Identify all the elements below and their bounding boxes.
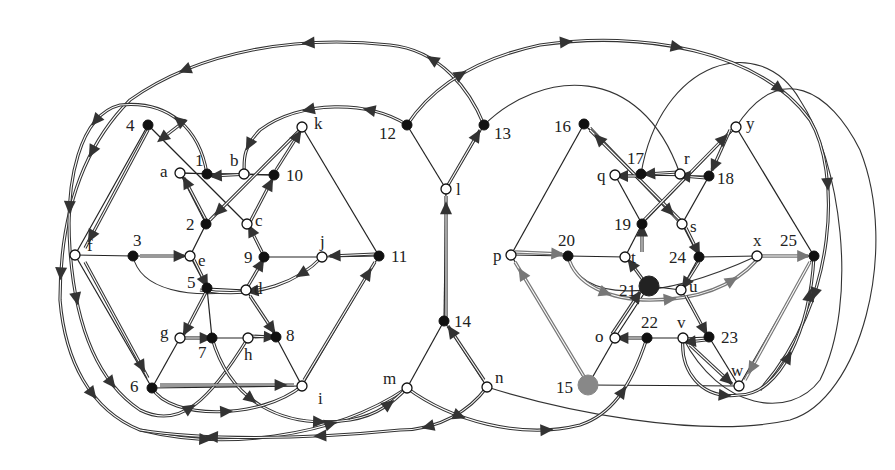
node-e xyxy=(185,251,195,261)
arrowhead-icon xyxy=(313,430,327,443)
node-p xyxy=(506,250,516,260)
node-4 xyxy=(143,120,153,130)
thin-curves-layer xyxy=(133,63,876,427)
node-label-h: h xyxy=(244,345,253,364)
node-label-18: 18 xyxy=(717,169,734,188)
node-9 xyxy=(259,252,269,262)
arrowhead-icon xyxy=(275,379,288,391)
node-label-5: 5 xyxy=(187,273,196,292)
node-label-16: 16 xyxy=(554,117,571,136)
node-a xyxy=(175,168,185,178)
node-x xyxy=(752,251,762,261)
node-label-j: j xyxy=(319,232,325,251)
node-label-15: 15 xyxy=(556,378,573,397)
node-24 xyxy=(694,252,704,262)
node-label-1: 1 xyxy=(195,151,204,170)
graph-edge-5-d xyxy=(207,288,246,290)
node-1 xyxy=(202,169,212,179)
node-m xyxy=(402,383,412,393)
node-label-21: 21 xyxy=(619,281,636,300)
node-label-l: l xyxy=(456,180,461,199)
arrowhead-icon xyxy=(360,265,377,282)
node-label-g: g xyxy=(160,323,169,342)
node-6 xyxy=(147,383,157,393)
directed-path-inner xyxy=(152,386,302,412)
node-label-m: m xyxy=(383,369,396,388)
node-r xyxy=(675,169,685,179)
node-label-3: 3 xyxy=(133,231,142,250)
directed-segment-inner xyxy=(85,262,148,378)
node-f xyxy=(70,250,80,260)
node-label-d: d xyxy=(254,279,263,298)
node-label-24: 24 xyxy=(669,248,687,267)
graph-diagram: 4ka1b102cf3e9j115dg7h86i1213l14mn16yq17r… xyxy=(0,0,895,470)
graph-edge-y-25 xyxy=(736,127,814,256)
node-label-p: p xyxy=(493,246,502,265)
node-w xyxy=(734,381,744,391)
node-label-r: r xyxy=(684,149,690,168)
arrowhead-icon xyxy=(241,136,258,153)
arrowhead-icon xyxy=(797,250,810,262)
node-label-c: c xyxy=(255,211,263,230)
node-d xyxy=(241,285,251,295)
node-q xyxy=(610,170,620,180)
node-n xyxy=(482,382,492,392)
directed-segment-inner xyxy=(515,262,586,380)
node-label-20: 20 xyxy=(558,231,575,250)
node-label-23: 23 xyxy=(721,328,738,347)
node-label-n: n xyxy=(495,368,504,387)
node-14 xyxy=(439,316,449,326)
arrowhead-icon xyxy=(663,293,677,306)
node-label-22: 22 xyxy=(641,313,658,332)
node-h xyxy=(243,333,253,343)
node-13 xyxy=(479,120,489,130)
directed-path xyxy=(60,42,484,440)
node-label-7: 7 xyxy=(198,343,207,362)
node-u xyxy=(676,285,686,295)
graph-edge-f-3 xyxy=(75,255,133,256)
node-o xyxy=(610,333,620,343)
node-label-25: 25 xyxy=(780,231,797,250)
arrowhead-icon xyxy=(220,405,234,418)
node-3 xyxy=(128,251,138,261)
node-j xyxy=(317,252,327,262)
node-label-e: e xyxy=(198,251,206,270)
thin-curve xyxy=(484,85,680,174)
graph-edge-15-w xyxy=(588,385,739,386)
graph-edge-14-m xyxy=(407,321,444,388)
node-label-19: 19 xyxy=(614,215,631,234)
node-label-b: b xyxy=(230,151,239,170)
node-v xyxy=(678,333,688,343)
node-s xyxy=(677,219,687,229)
node-7 xyxy=(207,333,217,343)
node-12 xyxy=(402,120,412,130)
node-label-y: y xyxy=(746,114,755,133)
arrowhead-icon xyxy=(540,424,554,437)
node-label-w: w xyxy=(731,361,744,380)
node-label-q: q xyxy=(597,166,606,185)
node-label-i: i xyxy=(318,389,323,408)
node-label-u: u xyxy=(689,277,698,296)
arrowhead-icon xyxy=(513,265,530,282)
node-5 xyxy=(202,283,212,293)
node-16 xyxy=(579,119,589,129)
node-label-v: v xyxy=(677,313,686,332)
graph-edge-24-x xyxy=(699,256,757,257)
node-label-x: x xyxy=(753,231,762,250)
node-l xyxy=(441,184,451,194)
node-i xyxy=(297,381,307,391)
node-k xyxy=(297,122,307,132)
arrowhead-icon xyxy=(301,37,315,50)
node-2 xyxy=(201,219,211,229)
graph-edge-12-l xyxy=(407,125,446,189)
node-label-17: 17 xyxy=(627,149,645,168)
node-label-f: f xyxy=(87,236,93,255)
directed-segment-inner xyxy=(745,262,810,380)
node-22 xyxy=(642,333,652,343)
node-18 xyxy=(704,171,714,181)
graph-edge-20-t xyxy=(568,256,625,257)
graph-edge-k-11 xyxy=(302,127,379,256)
node-label-4: 4 xyxy=(126,116,135,135)
arrowhead-icon xyxy=(559,35,573,48)
arrowhead-icon xyxy=(440,201,452,214)
